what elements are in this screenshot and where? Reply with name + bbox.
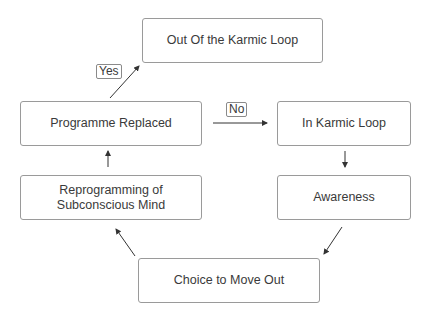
edge-label-no: No <box>226 102 247 117</box>
node-awareness[interactable]: Awareness <box>277 175 411 220</box>
node-label-line1: Reprogramming of <box>59 183 163 198</box>
node-label: Out Of the Karmic Loop <box>167 33 298 48</box>
node-label: Awareness <box>313 190 375 205</box>
node-label: In Karmic Loop <box>302 116 386 131</box>
node-label: Choice to Move Out <box>174 273 284 288</box>
edge-awareness-choice <box>324 227 342 254</box>
edge-label-yes: Yes <box>96 64 122 79</box>
edge-choice-reprogramming <box>116 229 135 256</box>
node-label: Programme Replaced <box>50 116 172 131</box>
node-label-line2: Subconscious Mind <box>57 198 165 213</box>
node-reprogramming[interactable]: Reprogramming of Subconscious Mind <box>20 175 202 220</box>
node-choice-to-move-out[interactable]: Choice to Move Out <box>138 258 320 303</box>
node-out-of-karmic-loop[interactable]: Out Of the Karmic Loop <box>142 18 323 63</box>
node-in-karmic-loop[interactable]: In Karmic Loop <box>277 101 411 146</box>
flowchart-canvas: Out Of the Karmic Loop Programme Replace… <box>0 0 433 321</box>
node-programme-replaced[interactable]: Programme Replaced <box>20 101 202 146</box>
